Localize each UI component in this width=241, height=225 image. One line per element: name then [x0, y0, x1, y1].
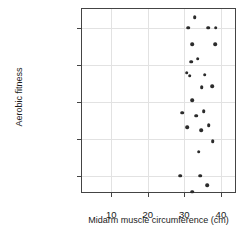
x-tick-label: 40	[216, 209, 227, 220]
data-point	[202, 109, 206, 113]
gridlines	[82, 9, 235, 192]
data-point	[191, 98, 195, 102]
x-tick-label: 10	[106, 209, 117, 220]
gridline-vertical	[111, 9, 112, 192]
x-axis-title: Midarm muscle circumference (cm)	[81, 215, 236, 225]
data-point	[206, 26, 210, 30]
data-point	[207, 123, 211, 127]
data-point	[180, 111, 184, 115]
y-axis-title: Aerobic fitness	[14, 32, 24, 162]
y-tick	[77, 139, 82, 140]
x-tick	[221, 192, 222, 197]
data-point	[185, 126, 189, 130]
data-point	[188, 74, 192, 78]
scatter-chart: Aerobic fitness Midarm muscle circumfere…	[0, 0, 241, 225]
gridline-vertical	[184, 9, 185, 192]
gridline-horizontal	[82, 28, 235, 29]
x-tick-label: 20	[143, 209, 154, 220]
x-tick-label: 30	[179, 209, 190, 220]
y-tick	[77, 176, 82, 177]
y-tick	[77, 102, 82, 103]
gridline-vertical	[148, 9, 149, 192]
data-point	[190, 190, 194, 194]
data-point	[193, 15, 197, 19]
data-point	[213, 42, 217, 46]
data-point	[206, 183, 210, 187]
data-point	[211, 140, 215, 144]
gridline-vertical	[221, 9, 222, 192]
x-tick	[184, 192, 185, 197]
data-point	[196, 57, 200, 61]
data-point	[197, 150, 201, 154]
data-point	[179, 174, 183, 178]
data-point	[195, 114, 199, 118]
x-tick	[148, 192, 149, 197]
plot-area: SuperiorExcellentGoodFairVery poor 10203…	[81, 8, 236, 193]
data-point	[214, 26, 218, 30]
x-tick	[111, 192, 112, 197]
data-point	[191, 42, 195, 46]
gridline-horizontal	[82, 65, 235, 66]
data-point	[203, 73, 207, 77]
data-point	[199, 129, 203, 133]
data-point	[200, 86, 204, 90]
gridline-horizontal	[82, 102, 235, 103]
gridline-horizontal	[82, 176, 235, 177]
data-point	[190, 60, 194, 64]
data-point	[199, 174, 203, 178]
data-point	[210, 84, 214, 88]
data-point	[186, 26, 190, 30]
y-tick	[77, 28, 82, 29]
y-tick	[77, 65, 82, 66]
